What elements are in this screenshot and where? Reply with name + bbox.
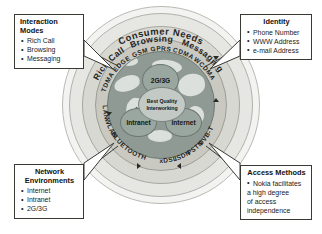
leader-tail-interaction-modes (84, 40, 113, 69)
callout-interaction-modes[interactable]: Interaction Modes Rich Call Browsing Mes… (14, 14, 84, 69)
callout-title: Interaction Modes (20, 18, 79, 35)
list-item: Nokia facilitates (253, 179, 307, 188)
callout-access-methods[interactable]: Access Methods Nokia facilitates a high … (240, 165, 312, 220)
callout-network-environments[interactable]: Network Environments Internet Intranet 2… (14, 164, 84, 219)
list-item: e-mail Address (253, 46, 307, 55)
callout-title: Network Environments (20, 168, 79, 185)
list-item: Internet (27, 186, 79, 195)
list-item: WWW Address (253, 37, 307, 46)
list-item: Messaging (27, 54, 79, 63)
callout-item-continuation: a high degree (246, 188, 307, 197)
callout-title-line2: Environments (20, 177, 79, 186)
list-item: Browsing (27, 45, 79, 54)
callout-item-continuation: independence (246, 206, 307, 215)
callout-title: Identity (246, 18, 307, 27)
leader-tail-network-environments (84, 143, 114, 180)
callout-identity[interactable]: Identity Phone Number WWW Address e-mail… (240, 14, 312, 60)
callout-title: Access Methods (246, 169, 307, 178)
callout-item-continuation: of access (246, 197, 307, 206)
diagram-canvas: Consumer Needs Rich Call Browsing Messag… (0, 0, 322, 234)
callout-list: Internet Intranet 2G/3G (20, 186, 79, 214)
list-item: Phone Number (253, 28, 307, 37)
leader-tail-access-methods (209, 143, 240, 180)
leader-tail-identity (210, 40, 240, 69)
callout-list: Phone Number WWW Address e-mail Address (246, 28, 307, 56)
callout-list: Rich Call Browsing Messaging (20, 36, 79, 64)
list-item: Rich Call (27, 36, 79, 45)
list-item: 2G/3G (27, 204, 79, 213)
callout-list: Nokia facilitates (246, 179, 307, 188)
list-item: Intranet (27, 195, 79, 204)
